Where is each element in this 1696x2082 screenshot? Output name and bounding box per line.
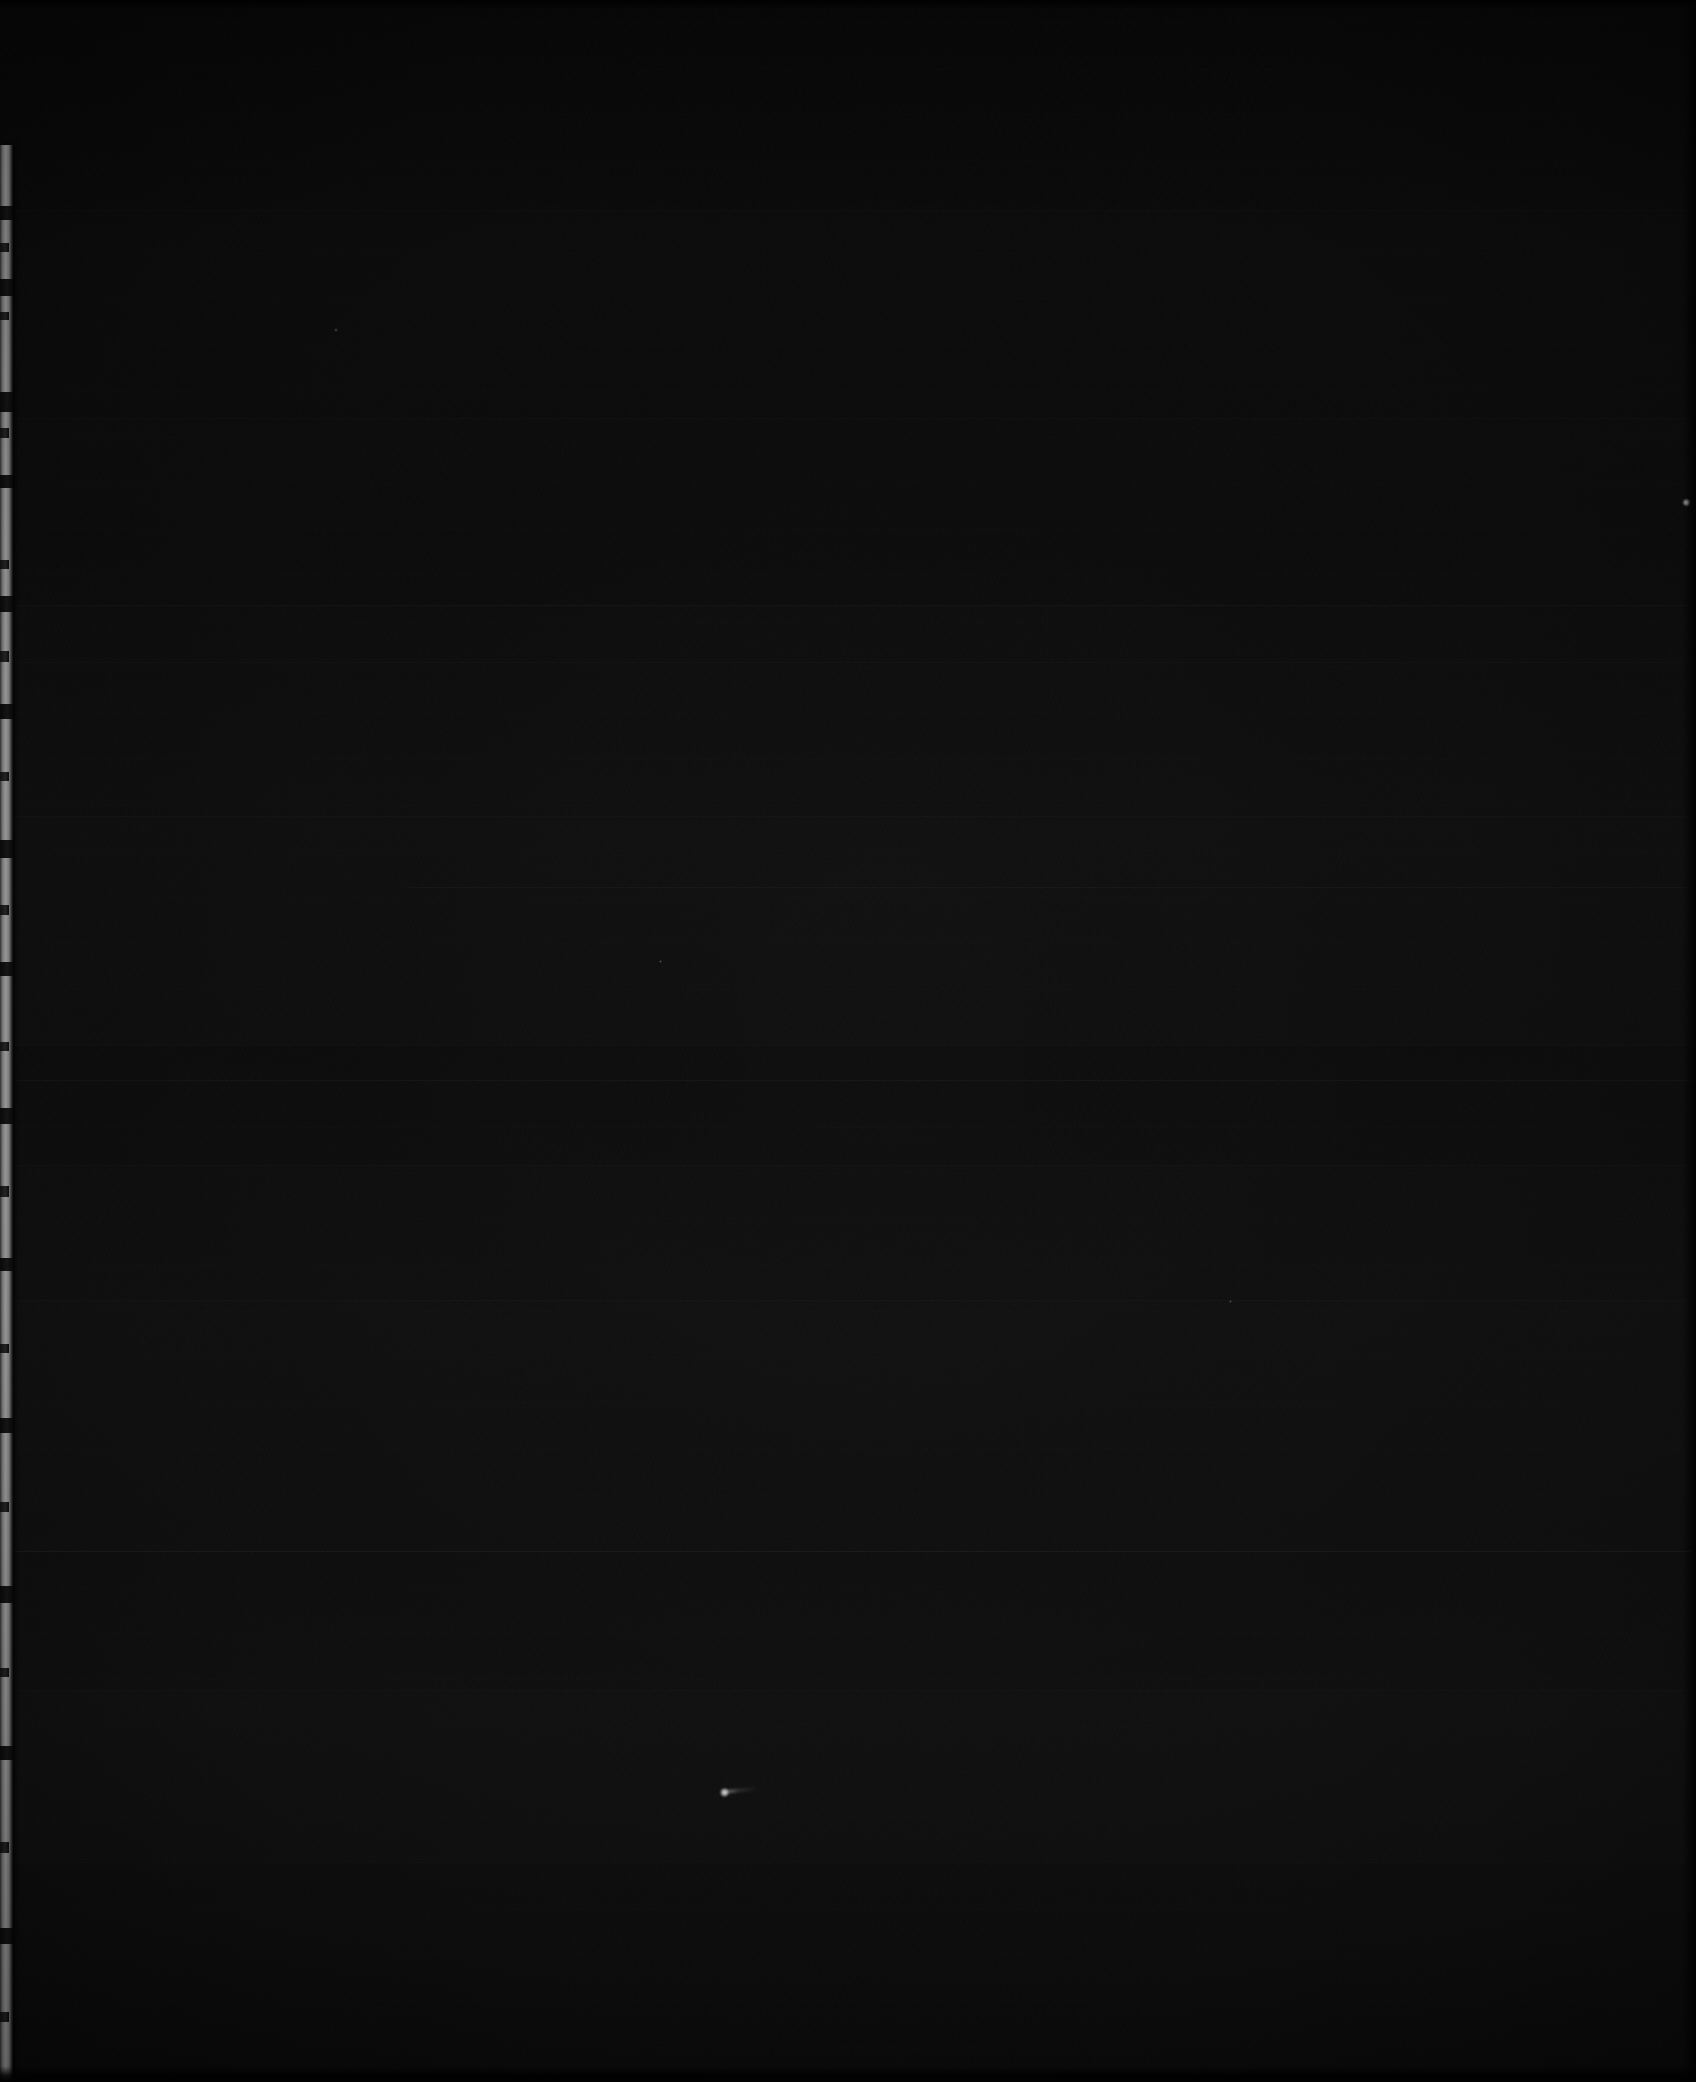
dark-scan-canvas: Almost entirely black image; a narrow li… bbox=[0, 0, 1696, 2082]
background-field bbox=[0, 0, 1696, 2082]
page-edge-notch bbox=[0, 596, 13, 612]
page-edge-notch bbox=[0, 392, 13, 412]
page-edge-notch bbox=[0, 243, 9, 252]
page-edge-notch bbox=[0, 1502, 9, 1512]
page-edge-notch bbox=[0, 1746, 13, 1760]
bottom-edge-shadow bbox=[0, 2066, 1696, 2082]
page-edge-notch bbox=[0, 1108, 13, 1124]
page-edge-notch bbox=[0, 704, 13, 719]
right-edge-shadow bbox=[1682, 0, 1696, 2082]
page-edge-notch bbox=[0, 651, 9, 662]
speck-tertiary bbox=[334, 328, 338, 332]
page-edge-notch bbox=[0, 1344, 9, 1353]
speck-quaternary bbox=[659, 960, 662, 963]
page-edge-notch bbox=[0, 560, 9, 569]
page-edge-notch bbox=[0, 962, 13, 976]
page-edge-notch bbox=[0, 475, 13, 488]
page-edge-notch bbox=[0, 1668, 9, 1677]
page-edge-notch bbox=[0, 206, 13, 220]
page-edge-notch bbox=[0, 905, 9, 915]
page-edge-notch bbox=[0, 1842, 9, 1853]
speck-primary bbox=[719, 1787, 730, 1798]
page-edge-notch bbox=[0, 1586, 13, 1603]
page-edge-notch bbox=[0, 1928, 13, 1944]
page-edge-notch bbox=[0, 279, 13, 296]
page-edge-notch bbox=[0, 1186, 9, 1197]
page-edge-notch bbox=[0, 772, 9, 781]
page-edge-notch bbox=[0, 312, 9, 320]
page-edge-notch bbox=[0, 840, 13, 858]
page-edge-notch bbox=[0, 2012, 9, 2022]
page-edge-notch bbox=[0, 1258, 13, 1271]
page-edge-notch bbox=[0, 428, 9, 438]
page-edge-notch bbox=[0, 1418, 13, 1433]
page-edge-notch bbox=[0, 1042, 9, 1051]
speck-fifth bbox=[1229, 1300, 1232, 1303]
top-edge-shadow bbox=[0, 0, 1696, 10]
